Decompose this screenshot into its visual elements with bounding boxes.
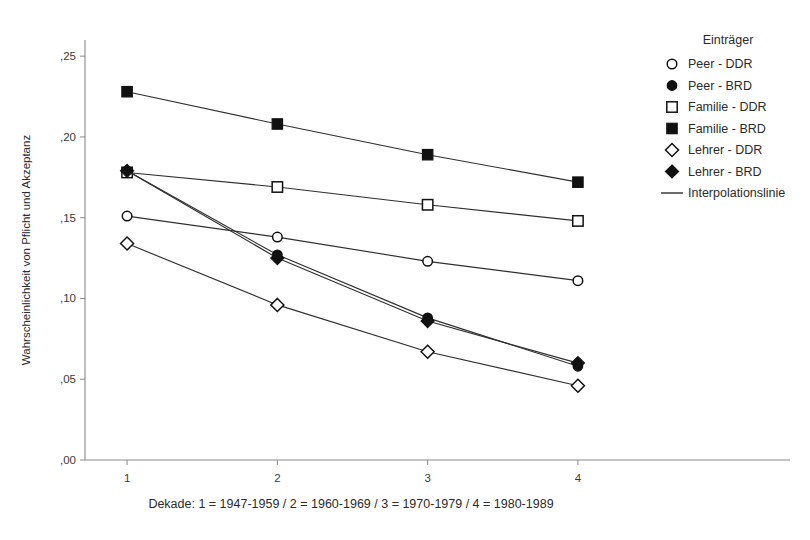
marker-circle-open [423, 257, 433, 267]
legend-item-label: Lehrer - DDR [688, 143, 762, 157]
y-axis-title: Wahrscheinlichkeit von Pflicht und Akzep… [20, 135, 32, 366]
y-tick-label: ,00 [60, 454, 76, 466]
x-tick-label: 2 [274, 472, 280, 484]
x-axis-caption: Dekade: 1 = 1947-1959 / 2 = 1960-1969 / … [148, 497, 553, 511]
legend-item-label: Familie - BRD [688, 122, 766, 136]
marker-square-filled [272, 119, 282, 129]
marker-circle-open [667, 59, 677, 69]
x-tick-label: 1 [124, 472, 130, 484]
marker-square-open [573, 216, 583, 226]
marker-square-filled [122, 86, 132, 96]
y-tick-label: ,10 [60, 292, 76, 304]
legend-item-label: Peer - DDR [688, 57, 753, 71]
y-tick-label: ,05 [60, 373, 76, 385]
legend-item-label: Lehrer - BRD [688, 165, 762, 179]
y-tick-label: ,15 [60, 212, 76, 224]
marker-square-filled [573, 177, 583, 187]
marker-square-open [422, 200, 432, 210]
y-tick-label: ,25 [60, 50, 76, 62]
marker-circle-open [273, 232, 283, 242]
legend-item-label: Peer - BRD [688, 79, 752, 93]
chart-figure: ,00,05,10,15,20,25 1234 Wahrscheinlichke… [0, 0, 810, 540]
x-tick-label: 3 [424, 472, 430, 484]
y-tick-label: ,20 [60, 131, 76, 143]
marker-square-filled [422, 149, 432, 159]
legend-title: Einträger [703, 33, 754, 47]
marker-circle-filled [667, 81, 677, 91]
marker-square-open [667, 102, 677, 112]
marker-square-open [272, 182, 282, 192]
legend-item-label: Interpolationslinie [688, 186, 785, 200]
marker-circle-open [573, 276, 583, 286]
marker-circle-open [122, 211, 132, 221]
legend-item-label: Familie - DDR [688, 100, 766, 114]
x-tick-label: 4 [575, 472, 582, 484]
marker-square-filled [667, 123, 677, 133]
line-chart-canvas: ,00,05,10,15,20,25 1234 Wahrscheinlichke… [0, 0, 810, 540]
